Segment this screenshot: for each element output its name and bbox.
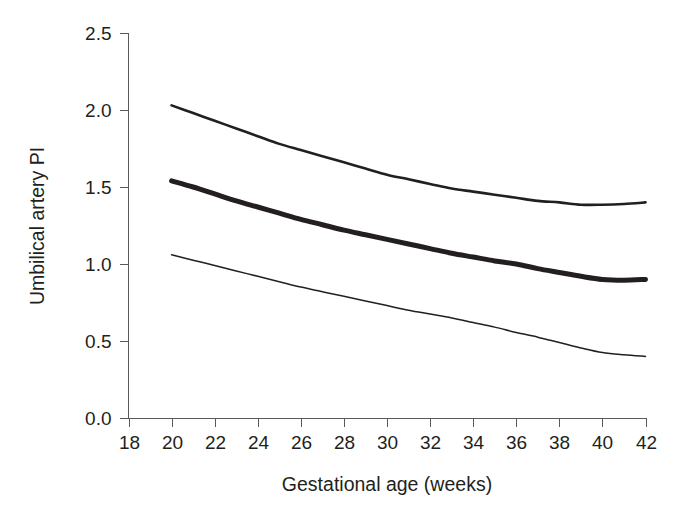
x-tick-label: 32 — [420, 432, 441, 453]
y-axis-title: Umbilical artery PI — [26, 147, 48, 305]
x-tick-label: 30 — [377, 432, 398, 453]
x-tick-label: 34 — [463, 432, 485, 453]
x-tick-label: 38 — [549, 432, 570, 453]
y-tick-label: 2.5 — [85, 23, 111, 44]
x-tick-label: 36 — [506, 432, 527, 453]
x-tick-label: 18 — [119, 432, 140, 453]
x-tick-label: 28 — [334, 432, 355, 453]
y-tick-label: 1.5 — [85, 177, 111, 198]
x-tick-label: 40 — [592, 432, 613, 453]
y-tick-label: 1.0 — [85, 254, 111, 275]
x-tick-label: 22 — [205, 432, 226, 453]
y-tick-marks — [120, 34, 129, 419]
x-tick-label: 24 — [248, 432, 270, 453]
x-tick-label: 20 — [162, 432, 183, 453]
curve-lower-centile — [172, 255, 646, 357]
umbilical-artery-pi-chart: 0.00.51.01.52.02.5 182022242628303234363… — [0, 0, 686, 518]
curve-upper-centile — [172, 105, 646, 205]
y-tick-labels: 0.00.51.01.52.02.5 — [85, 23, 111, 429]
y-tick-label: 2.0 — [85, 100, 111, 121]
x-axis-title: Gestational age (weeks) — [282, 473, 492, 495]
x-tick-labels: 18202224262830323436384042 — [119, 432, 657, 453]
y-tick-label: 0.5 — [85, 331, 111, 352]
figure-container: 0.00.51.01.52.02.5 182022242628303234363… — [0, 0, 686, 518]
x-tick-label: 42 — [636, 432, 657, 453]
y-tick-label: 0.0 — [85, 408, 111, 429]
curve-median-centile — [172, 181, 646, 280]
centile-curves — [172, 105, 646, 356]
x-tick-label: 26 — [291, 432, 312, 453]
